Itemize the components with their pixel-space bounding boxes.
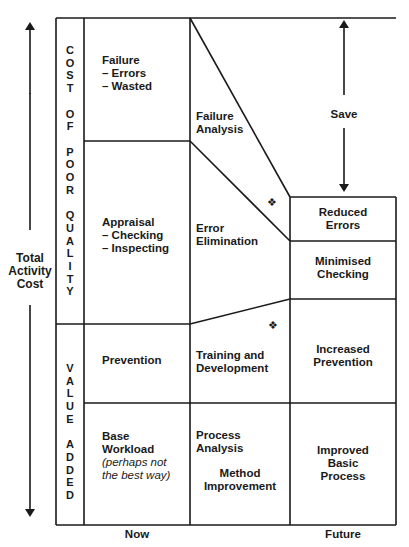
base-workload-block: Base Workload (perhaps not the best way) [102, 430, 170, 482]
increased-prevention-block: Increased Prevention [290, 343, 396, 369]
value-added-label: VALUE ADDED [56, 362, 84, 502]
diamond-marker-icon: ❖ [267, 197, 277, 208]
process-analysis-block: Process Analysis [196, 429, 243, 455]
appraisal-block: Appraisal – Checking – Inspecting [102, 216, 169, 255]
save-label: Save [324, 108, 364, 121]
failure-analysis-block: Failure Analysis [196, 110, 243, 136]
improved-basic-process-block: Improved Basic Process [290, 444, 396, 483]
training-development-block: Training and Development [196, 349, 268, 375]
future-axis-label: Future [313, 528, 373, 541]
prevention-block: Prevention [102, 354, 161, 367]
method-improvement-block: Method Improvement [190, 467, 290, 493]
failure-block: Failure – Errors – Wasted [102, 54, 152, 93]
now-axis-label: Now [107, 528, 167, 541]
cost-of-poor-quality-label: COST OF POOR QUALITY [56, 44, 84, 298]
error-elimination-block: Error Elimination [196, 222, 258, 248]
minimised-checking-block: Minimised Checking [290, 255, 396, 281]
total-activity-cost-label: Total Activity Cost [6, 252, 54, 291]
diamond-marker-icon: ❖ [268, 320, 278, 331]
reduced-errors-block: Reduced Errors [290, 206, 396, 232]
